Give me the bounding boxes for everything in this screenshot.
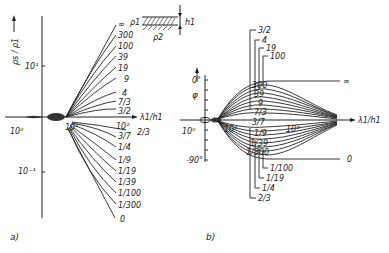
panel-a-label-300: 300: [118, 31, 133, 40]
panel-a: ρs / ρ1 10¹ 10⁻¹ λ1/h1 10⁰ 10¹ 10²: [5, 5, 195, 242]
panel-a-label-19: 19: [118, 64, 128, 73]
panel-a-label-4: 4: [122, 89, 127, 98]
panel-b: φ 0° -90° λ1/h1 10⁰ 10¹ 10²: [180, 26, 381, 242]
panel-a-upper-curves: [66, 25, 116, 117]
panel-b-caption: b): [206, 232, 215, 242]
panel-a-label-0: 0: [120, 215, 125, 224]
layer-inset: ρ1 ρ2 h1: [130, 5, 195, 42]
panel-a-ytick-label-10: 10¹: [25, 62, 38, 71]
panel-a-xtick-1: 10⁰: [10, 127, 24, 136]
panel-a-label-9: 9: [124, 75, 129, 84]
arrow-up-icon: [12, 15, 16, 21]
panel-a-label-1-39: 1/39: [118, 178, 136, 187]
panel-b-label-1-9: 1/9: [254, 129, 267, 138]
panel-b-label-inf: ∞: [343, 77, 350, 86]
panel-b-ylabel: φ: [192, 90, 198, 100]
panel-a-ytick-label-0.1: 10⁻¹: [18, 167, 36, 176]
panel-a-label-1-4: 1/4: [118, 143, 131, 152]
arrow-right-icon: [132, 115, 138, 119]
panel-b-ytick-0: 0°: [192, 76, 201, 85]
panel-b-callout-1-19: 1/19: [266, 174, 284, 183]
inset-rho1-label: ρ1: [130, 18, 140, 27]
inset-rho2-label: ρ2: [153, 33, 163, 42]
panel-b-label-0: 0: [347, 155, 352, 164]
panel-b-callout-1-100: 1/100: [270, 164, 293, 173]
panel-b-label-39: 39: [254, 90, 264, 99]
panel-b-callout-1-4: 1/4: [262, 184, 275, 193]
panel-a-label-100: 100: [118, 42, 133, 51]
figure: ρs / ρ1 10¹ 10⁻¹ λ1/h1 10⁰ 10¹ 10²: [0, 0, 389, 253]
panel-a-label-3-2: 3/2: [118, 107, 131, 116]
panel-b-upper-curves: [218, 81, 340, 119]
hatching: [143, 17, 175, 30]
panel-a-curve-cluster: [47, 113, 65, 121]
inset-h1-label: h1: [185, 18, 195, 27]
panel-a-label-7-3: 7/3: [118, 98, 131, 107]
panel-a-caption: a): [10, 232, 19, 242]
panel-a-label-1-100: 1/100: [118, 189, 141, 198]
panel-b-label-300: 300: [252, 81, 267, 90]
panel-b-xlabel: λ1/h1: [357, 116, 381, 125]
panel-b-callout-2-3: 2/3: [258, 194, 271, 203]
panel-a-curve-tail: [26, 116, 42, 118]
panel-a-label-inf: ∞: [118, 20, 125, 29]
panel-b-label-9: 9: [258, 99, 263, 108]
panel-b-label-7-3: 7/3: [254, 108, 267, 117]
panel-a-ylabel: ρs / ρ1: [11, 38, 20, 65]
panel-a-label-3-7: 3/7: [118, 132, 132, 141]
panel-a-label-1-19: 1/19: [118, 167, 136, 176]
panel-a-label-1-300: 1/300: [118, 201, 141, 210]
panel-b-callout-100: 100: [270, 52, 285, 61]
panel-b-label-1-300: 1/300: [246, 148, 269, 157]
panel-b-callout-3-2: 3/2: [258, 26, 271, 35]
panel-b-ytick-minus90: -90°: [186, 156, 203, 165]
arrow-up-icon: [195, 67, 199, 73]
panel-a-label-1-9: 1/9: [118, 156, 131, 165]
panel-a-xlabel: λ1/h1: [139, 113, 163, 122]
panel-a-label-2-3: 2/3: [137, 128, 150, 137]
panel-b-label-3-7: 3/7: [252, 118, 266, 127]
panel-a-label-39: 39: [118, 53, 128, 62]
panel-b-xtick-1: 10⁰: [182, 127, 196, 136]
arrow-right-icon: [350, 118, 356, 122]
